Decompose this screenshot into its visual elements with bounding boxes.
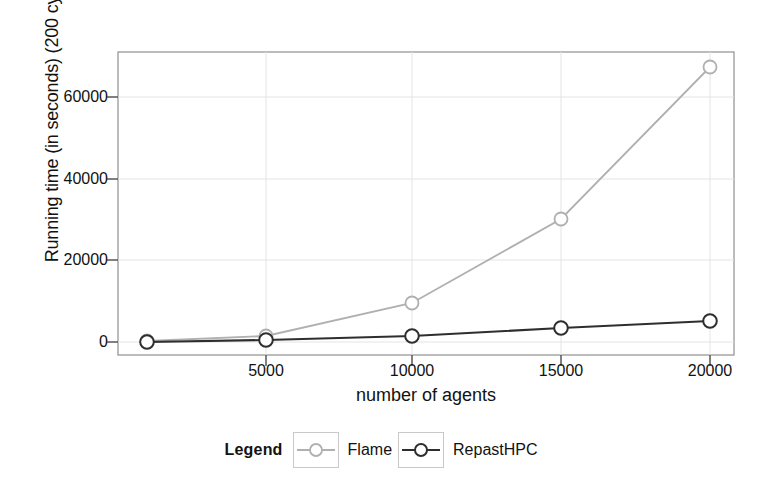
data-point-repasthpc-1000: [140, 335, 154, 349]
x-axis-ticks: [266, 355, 710, 366]
data-point-repasthpc-5000: [259, 333, 273, 347]
x-tick-label-15000: 15000: [539, 362, 584, 380]
plot-canvas: [0, 0, 768, 496]
x-tick-label-20000: 20000: [688, 362, 733, 380]
data-point-repasthpc-10000: [405, 329, 419, 343]
chart-legend: Legend Flame RepastHPC: [0, 432, 768, 468]
data-point-flame-15000: [555, 213, 568, 226]
legend-title: Legend: [224, 441, 282, 459]
legend-item-flame: Flame: [293, 432, 398, 468]
data-point-repasthpc-15000: [554, 321, 568, 335]
legend-item-repasthpc: RepastHPC: [398, 432, 543, 468]
y-axis-ticks: [107, 97, 118, 342]
data-point-repasthpc-20000: [703, 314, 717, 328]
legend-key-flame: [293, 432, 339, 468]
data-point-flame-20000: [704, 61, 717, 74]
x-axis-title: number of agents: [118, 385, 734, 406]
x-tick-label-10000: 10000: [390, 362, 435, 380]
legend-marker-flame-icon: [295, 440, 337, 460]
chart-figure: 0 20000 40000 60000 Running time (in sec…: [0, 0, 768, 496]
legend-key-repasthpc: [398, 432, 444, 468]
legend-label-flame: Flame: [348, 441, 392, 459]
legend-label-repasthpc: RepastHPC: [453, 441, 537, 459]
x-tick-label-5000: 5000: [248, 362, 284, 380]
data-point-flame-10000: [406, 297, 419, 310]
legend-marker-repasthpc-icon: [400, 440, 442, 460]
